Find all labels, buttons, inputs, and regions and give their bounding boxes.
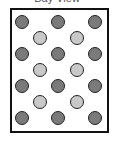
dark-circle-icon [15, 15, 29, 29]
light-circle-icon [70, 95, 84, 109]
dark-circle-icon [51, 47, 65, 61]
light-circle-icon [70, 63, 84, 77]
dark-circle-icon [51, 15, 65, 29]
light-circle-icon [33, 95, 47, 109]
dark-circle-icon [88, 111, 102, 125]
dark-circle-icon [88, 79, 102, 93]
light-circle-icon [33, 31, 47, 45]
dark-circle-icon [15, 47, 29, 61]
dark-circle-icon [15, 111, 29, 125]
dark-circle-icon [51, 111, 65, 125]
dark-circle-icon [51, 79, 65, 93]
diagram-title: Bay View [0, 0, 114, 4]
light-circle-icon [70, 31, 84, 45]
light-circle-icon [33, 63, 47, 77]
dark-circle-icon [15, 79, 29, 93]
dark-circle-icon [88, 47, 102, 61]
dark-circle-icon [88, 15, 102, 29]
